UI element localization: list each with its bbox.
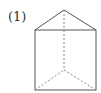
edge-top-right [64,10,96,30]
hidden-edge-bottom-right [64,70,96,90]
front-face [35,30,96,90]
edge-top-left [35,10,64,30]
hidden-edge-bottom-left [35,70,64,90]
triangular-prism-diagram [0,0,101,93]
visible-edges [35,10,96,90]
hidden-edges [35,10,96,90]
